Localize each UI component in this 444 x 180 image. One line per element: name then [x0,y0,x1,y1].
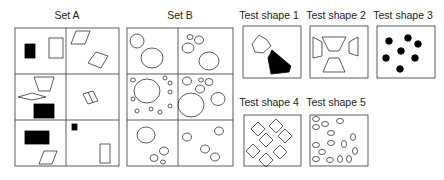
circle-icon [201,145,210,153]
filled-rectangle-icon [25,131,49,144]
circle-icon [135,109,139,113]
test-shape-2-frame [310,26,368,78]
circle-icon [211,153,220,161]
diamond-icon [273,145,287,159]
circle-icon [168,90,172,94]
circle-icon [158,110,162,114]
circle-icon [134,79,160,103]
circle-icon [168,104,172,108]
diamond-icon [269,119,283,133]
circle-icon [161,160,166,164]
circle-icon [168,81,172,85]
circle-icon [196,85,205,93]
circle-icon [163,76,167,80]
set-b-grid [127,28,233,166]
oval-icon [338,156,343,163]
test-shape-5-frame [310,115,368,166]
bongard-diagram [0,0,444,180]
circle-icon [178,93,204,117]
small-ovals [313,117,358,163]
rectangle-icon [100,144,110,163]
parallelogram-icon [71,31,90,44]
filled-rectangle-icon [34,104,54,118]
oval-icon [327,158,334,163]
oval-icon [347,156,352,163]
trapezoid-icon [313,37,322,58]
filled-square-icon [72,124,77,130]
trapezoid-icon [322,37,346,51]
parallelogram-icon [39,151,57,164]
trapezoid-icon [349,37,358,56]
oval-icon [351,134,356,141]
oval-icon [337,119,344,124]
circle-icon [130,34,144,48]
filled-dots [383,35,422,73]
circle-icon [187,35,193,40]
dot-icon [386,38,393,45]
trapezoid-icon [323,58,345,72]
circle-icon [137,127,155,143]
oval-icon [319,150,326,155]
circle-icon [199,78,204,82]
diamond-icon [251,122,265,136]
oval-icon [328,131,335,136]
dot-icon [398,48,405,55]
circle-icon [215,127,224,135]
circle-icon [183,77,192,85]
rectangle-icon [49,38,63,58]
oval-icon [313,157,320,162]
dot-icon [412,55,419,62]
parallelogram-icon [88,52,108,68]
circle-icon [199,52,219,70]
circle-icon [182,43,194,53]
diamond-icon [246,144,260,158]
pentagon-icon [252,35,271,53]
diamonds [246,119,292,167]
oval-icon [342,141,347,148]
circle-icon [141,48,163,68]
dot-icon [415,41,422,48]
circle-icon [195,36,204,44]
oval-icon [313,117,320,122]
circle-icon [211,93,225,106]
circle-icon [160,147,169,155]
filled-pentagon-icon [268,50,291,74]
diamond-icon [278,129,292,143]
oval-icon [313,143,320,148]
dot-icon [405,35,412,42]
dot-icon [397,66,404,73]
oval-icon [328,141,335,146]
test-shape-3-frame [377,26,435,78]
oval-icon [313,125,320,130]
circle-icon [183,133,192,141]
circle-icon [131,97,135,101]
diamond-icon [259,153,273,167]
circle-icon [149,107,153,111]
oval-icon [322,122,329,127]
circle-icon [205,79,213,86]
diamond-icon [259,133,273,147]
oval-icon [353,148,358,155]
circle-icon [131,78,136,82]
dot-icon [383,55,390,62]
rhombus-icon [18,93,46,100]
filled-rectangle-icon [25,44,35,58]
trapezoid-icon [34,77,54,91]
circle-icon [150,155,158,162]
